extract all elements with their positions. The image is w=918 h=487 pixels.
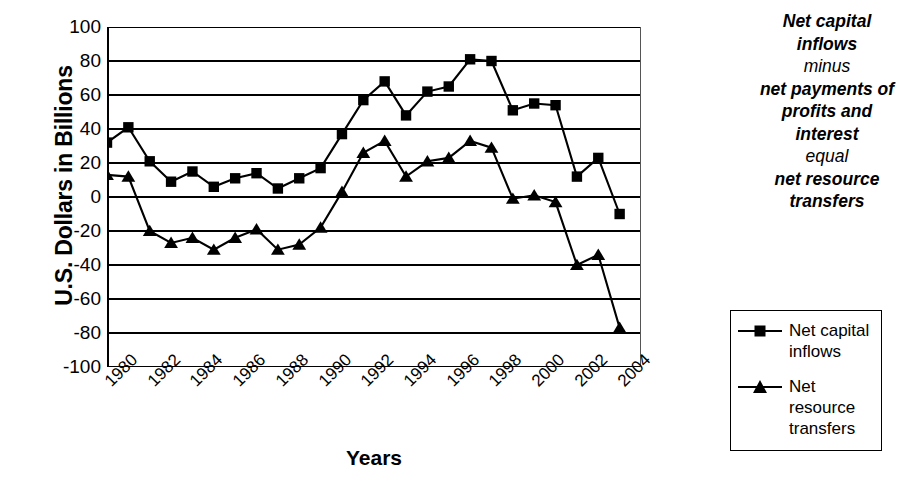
data-point-triangle — [186, 232, 200, 243]
data-point-square — [379, 76, 389, 86]
data-point-square — [187, 166, 197, 176]
data-point-square — [593, 153, 603, 163]
data-point-square — [358, 95, 368, 105]
data-point-square — [273, 183, 283, 193]
data-point-square — [444, 81, 454, 91]
data-point-square — [209, 182, 219, 192]
y-tick-label: 40 — [43, 119, 101, 138]
data-point-square — [550, 100, 560, 110]
y-tick-label: -20 — [43, 221, 101, 240]
data-point-triangle — [463, 135, 477, 146]
chart-legend: Net capital inflowsNet resource transfer… — [730, 310, 882, 451]
data-point-square — [572, 171, 582, 181]
series-line — [107, 141, 620, 328]
chart-caption: Net capitalinflowsminusnet payments ofpr… — [744, 10, 910, 213]
legend-item[interactable]: Net resource transfers — [737, 376, 875, 439]
series-1 — [107, 54, 625, 219]
data-point-square — [145, 156, 155, 166]
series-2 — [107, 135, 627, 333]
y-tick-label: -60 — [43, 289, 101, 308]
caption-line: equal — [744, 145, 910, 168]
data-point-square — [486, 56, 496, 66]
data-point-square — [529, 98, 539, 108]
data-point-square — [166, 177, 176, 187]
legend-triangle-icon — [737, 377, 783, 397]
data-point-triangle — [207, 243, 221, 254]
data-point-square — [614, 209, 624, 219]
y-tick-label: -40 — [43, 255, 101, 274]
y-tick-label: 60 — [43, 85, 101, 104]
data-point-square — [315, 163, 325, 173]
caption-line: transfers — [744, 190, 910, 213]
x-axis-tick-labels: 1980198219841986198819901992199419961998… — [107, 367, 641, 437]
data-point-triangle — [143, 225, 157, 236]
data-point-triangle — [314, 221, 328, 232]
data-point-triangle — [591, 249, 605, 260]
y-tick-label: 20 — [43, 153, 101, 172]
legend-label: Net resource transfers — [789, 376, 875, 439]
y-tick-label: -100 — [43, 357, 101, 376]
data-point-square — [251, 168, 261, 178]
y-axis-tick-labels: 100806040200-20-40-60-80-100 — [41, 27, 101, 367]
data-point-triangle — [250, 223, 264, 234]
data-point-triangle — [228, 232, 242, 243]
caption-line: minus — [744, 55, 910, 78]
caption-line: inflows — [744, 33, 910, 56]
caption-line: profits and — [744, 100, 910, 123]
data-point-triangle — [613, 322, 627, 333]
data-point-square — [422, 86, 432, 96]
caption-line: net resource — [744, 168, 910, 191]
legend-square-icon — [737, 321, 783, 341]
y-tick-label: 100 — [43, 17, 101, 36]
data-point-square — [230, 173, 240, 183]
data-point-triangle — [570, 259, 584, 270]
y-tick-label: 0 — [43, 187, 101, 206]
caption-line: net payments of — [744, 78, 910, 101]
data-point-square — [107, 137, 112, 147]
data-point-square — [337, 129, 347, 139]
data-point-triangle — [527, 189, 541, 200]
data-point-square — [294, 173, 304, 183]
series-line — [107, 59, 620, 214]
data-point-square — [123, 122, 133, 132]
x-axis-title: Years — [107, 446, 641, 470]
data-point-triangle — [378, 135, 392, 146]
plot-svg — [107, 27, 641, 367]
legend-item[interactable]: Net capital inflows — [737, 320, 875, 362]
y-tick-label: -80 — [43, 323, 101, 342]
data-point-square — [508, 105, 518, 115]
caption-line: interest — [744, 123, 910, 146]
data-point-square — [401, 110, 411, 120]
chart-figure: U.S. Dollars in Billions 100806040200-20… — [0, 0, 918, 487]
data-point-triangle — [356, 147, 370, 158]
plot-area — [107, 27, 641, 367]
caption-line: Net capital — [744, 10, 910, 33]
legend-label: Net capital inflows — [789, 320, 875, 362]
data-point-triangle — [335, 186, 349, 197]
data-point-square — [465, 54, 475, 64]
y-tick-label: 80 — [43, 51, 101, 70]
